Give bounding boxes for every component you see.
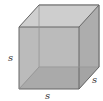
cube-front-face: [19, 27, 79, 89]
label-width: s: [45, 90, 50, 101]
label-height: s: [8, 52, 13, 63]
cube-diagram: s s s: [0, 0, 103, 101]
label-depth: s: [92, 74, 97, 85]
